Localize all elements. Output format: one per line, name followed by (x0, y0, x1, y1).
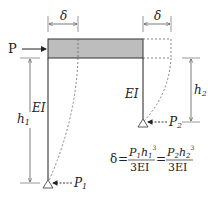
numerator-2: P2h23 (166, 144, 194, 160)
denominator-2: 3EI (168, 161, 187, 174)
ei-label-right: EI (124, 87, 139, 101)
load-label: P (8, 41, 17, 56)
p1-label: P1 (73, 176, 87, 191)
delta-label-left: δ (60, 9, 67, 23)
applied-load: P (8, 41, 46, 56)
beam (48, 39, 143, 58)
ei-label-left: EI (31, 101, 46, 115)
reaction-left: P1 (53, 176, 87, 191)
delta-label-right: δ (154, 9, 161, 23)
denominator-1: 3EI (130, 161, 149, 174)
numerator-1: P1h13 (128, 144, 156, 160)
reaction-right: P2 (148, 115, 182, 130)
pin-support-left-icon (43, 180, 53, 188)
deflection-dimension-left: δ (48, 9, 78, 32)
p2-label: P2 (168, 115, 182, 130)
deflection-formula: δ = P1h13 3EI = P2h23 3EI (110, 144, 194, 174)
frame-diagram: δ δ P h1 h2 (0, 0, 215, 198)
deflection-dimension-right: δ (143, 9, 171, 32)
height-dimension-right: h2 (182, 58, 211, 122)
pin-support-right-icon (138, 119, 148, 127)
svg-text:=: = (156, 152, 166, 166)
svg-text:δ: δ (110, 152, 117, 166)
height-dimension-left: h1 (16, 58, 40, 183)
svg-text:=: = (118, 152, 128, 166)
